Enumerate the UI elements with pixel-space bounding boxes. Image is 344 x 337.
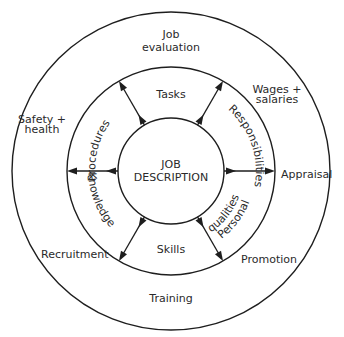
center-label-line1: JOB xyxy=(160,158,180,171)
arrow-upper-right xyxy=(194,79,226,127)
outer-label-health: health xyxy=(25,123,60,136)
inner-label-skills: Skills xyxy=(157,243,186,256)
arrow-lower-left xyxy=(116,215,148,263)
center-label-line2: DESCRIPTION xyxy=(134,171,208,184)
outer-label-promotion: Promotion xyxy=(241,253,297,266)
outer-label-salaries: salaries xyxy=(256,93,299,106)
procedures-textpath: Procedures xyxy=(85,117,113,182)
outer-label-evaluation: evaluation xyxy=(142,41,200,54)
arrow-upper-left xyxy=(116,79,148,127)
responsibilities-textpath: Responsibilities xyxy=(226,102,266,188)
inner-label-tasks: Tasks xyxy=(155,88,186,101)
outer-label-appraisal: Appraisal xyxy=(281,168,332,181)
inner-label-procedures: Procedures xyxy=(85,117,113,182)
outer-label-training: Training xyxy=(148,292,192,305)
outer-label-recruitment: Recruitment xyxy=(41,248,109,261)
outer-label-job: Job xyxy=(162,28,180,41)
knowledge-textpath: Knowledge xyxy=(85,172,118,230)
inner-label-knowledge: Knowledge xyxy=(85,172,118,230)
inner-label-responsibilities: Responsibilities xyxy=(226,102,266,188)
arrow-right xyxy=(224,168,275,175)
job-description-diagram: JOB DESCRIPTION Tasks Skills Procedures … xyxy=(0,0,344,337)
